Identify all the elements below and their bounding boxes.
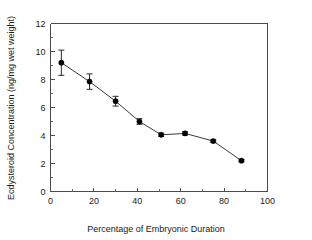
x-tick-label: 20 [89,196,99,206]
data-point [59,60,64,65]
data-point [87,79,92,84]
x-tick-label: 100 [260,196,275,206]
x-tick-label: 60 [176,196,186,206]
y-tick-label: 4 [40,131,45,141]
data-point [211,139,216,144]
data-point [182,131,187,136]
data-point [159,132,164,137]
y-tick-label: 2 [40,159,45,169]
data-point [239,158,244,163]
x-tick-label: 80 [219,196,229,206]
x-axis-title: Percentage of Embryonic Duration [87,224,225,234]
x-tick-label: 0 [48,196,53,206]
y-axis-title: Ecdysteroid Concentration (ng/mg wet wei… [6,16,16,200]
x-tick-label: 40 [132,196,142,206]
y-tick-label: 0 [40,187,45,197]
chart-figure: 024681012 020406080100 Percentage of Emb… [0,0,312,240]
y-tick-label: 6 [40,103,45,113]
ecdysteroid-concentration-line-chart: 024681012 020406080100 Percentage of Emb… [0,0,312,240]
y-tick-label: 8 [40,75,45,85]
data-point [137,119,142,124]
data-point [113,99,118,104]
y-tick-label: 10 [35,47,45,57]
y-tick-label: 12 [35,19,45,29]
